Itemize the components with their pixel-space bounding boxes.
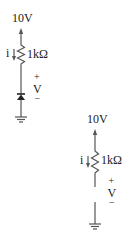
resistor-icon <box>18 42 25 66</box>
supply-label: 10V <box>87 112 108 126</box>
circuit-b: 10V i 1kΩ + V − <box>80 112 122 229</box>
supply-label: 10V <box>12 11 33 25</box>
resistor-label: 1kΩ <box>101 153 122 167</box>
resistor-icon <box>92 148 99 187</box>
supply-arrow-icon <box>93 129 97 148</box>
supply-arrow-icon <box>19 28 23 42</box>
voltage-minus: − <box>35 93 41 104</box>
current-arrow-icon <box>86 156 90 168</box>
current-arrow-icon <box>12 49 16 61</box>
resistor-label: 1kΩ <box>27 47 48 61</box>
current-label: i <box>6 46 10 60</box>
ground-icon <box>89 224 101 229</box>
current-label: i <box>80 153 84 167</box>
voltage-minus: − <box>109 197 115 208</box>
voltage-plus: + <box>34 71 40 82</box>
ground-icon <box>15 117 27 122</box>
circuit-a: 10V i 1kΩ + V <box>6 11 48 122</box>
circuit-diagrams: 10V i 1kΩ + V <box>0 0 133 238</box>
diode-icon <box>17 94 25 100</box>
voltage-plus: + <box>109 175 115 186</box>
